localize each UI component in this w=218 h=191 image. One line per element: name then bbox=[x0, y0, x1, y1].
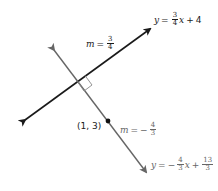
eq-lhs: y bbox=[154, 15, 159, 25]
fraction: 13 3 bbox=[202, 157, 213, 172]
eq-sign: = bbox=[161, 15, 169, 25]
fraction: 3 4 bbox=[107, 36, 113, 51]
line-slope-neg-four-thirds bbox=[54, 50, 146, 172]
fraction: 4 3 bbox=[150, 122, 156, 137]
perpendicular-lines-diagram: y = 3 4 x + 4 m = 3 4 (1, 3) m = − 4 3 y… bbox=[0, 0, 218, 191]
line1-slope-label: m = 3 4 bbox=[86, 36, 115, 51]
point-label: (1, 3) bbox=[77, 121, 101, 131]
eq-var: x bbox=[179, 15, 184, 25]
right-angle-marker bbox=[78, 76, 92, 92]
point-1-3 bbox=[106, 119, 111, 124]
line2-slope-label: m = − 4 3 bbox=[120, 122, 157, 137]
fraction: 3 4 bbox=[172, 12, 178, 27]
line1-equation: y = 3 4 x + 4 bbox=[154, 12, 201, 27]
fraction: 4 3 bbox=[177, 157, 183, 172]
line2-equation: y = − 4 3 x + 13 3 bbox=[151, 157, 214, 172]
